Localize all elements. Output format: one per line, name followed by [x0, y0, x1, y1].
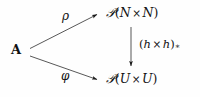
- phi-glyph: φ: [61, 69, 69, 83]
- map-left-h: h: [144, 37, 151, 51]
- arrow-phi-label: φ: [61, 70, 69, 82]
- node-A-label: A: [11, 42, 21, 57]
- set-left-U: U: [120, 71, 131, 86]
- node-P-U-times-U: 𝒫(U×U): [106, 72, 158, 86]
- times-icon: ×: [131, 7, 143, 19]
- commutative-diagram: A 𝒫(N×N) 𝒫(U×U) ρ φ (h×h)∗: [0, 0, 200, 97]
- pushforward-star-icon: ∗: [175, 42, 180, 51]
- rho-glyph: ρ: [62, 9, 69, 23]
- close-paren: ): [153, 71, 158, 86]
- node-A: A: [11, 43, 21, 56]
- times-icon: ×: [151, 38, 163, 50]
- arrow-rho-label: ρ: [62, 10, 69, 22]
- close-paren: ): [153, 5, 158, 20]
- powerset-icon: 𝒫: [106, 5, 115, 20]
- powerset-icon: 𝒫: [106, 71, 115, 86]
- arrow-h-times-h-pushforward-label: (h×h)∗: [139, 39, 180, 51]
- set-right-U: U: [142, 71, 153, 86]
- set-left-N: N: [120, 5, 131, 20]
- node-P-N-times-N: 𝒫(N×N): [106, 6, 158, 20]
- times-icon: ×: [130, 73, 142, 85]
- set-right-N: N: [142, 5, 153, 20]
